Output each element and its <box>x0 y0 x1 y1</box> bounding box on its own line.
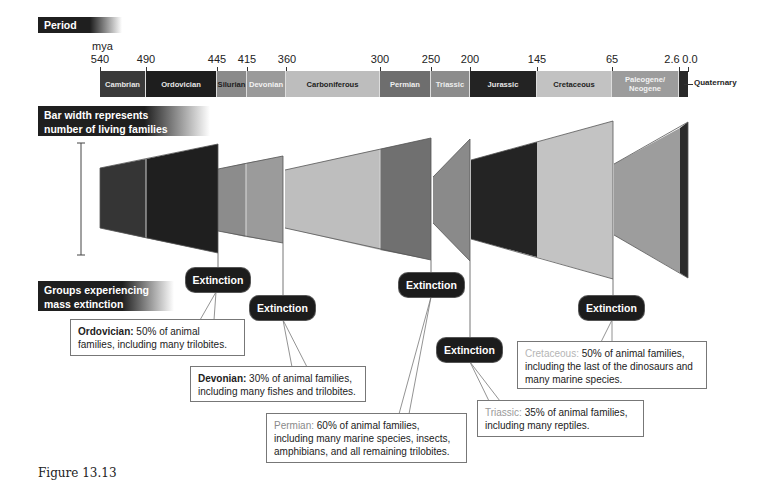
extinction-note-ordovician: Ordovician: 50% of animal families, incl… <box>70 319 245 356</box>
figure-caption: Figure 13.13 <box>38 466 117 480</box>
funnel-permian <box>380 138 431 260</box>
funnel-paleogene-neogene <box>614 128 680 273</box>
extinction-note-period: Triassic: <box>485 407 522 418</box>
funnel-cretaceous <box>537 121 613 279</box>
extinction-badge-triassic: Extinction <box>437 338 502 362</box>
funnel-carboniferous <box>285 149 380 250</box>
extinction-badge-label: Extinction <box>257 302 308 314</box>
funnel-cambrian <box>100 159 146 238</box>
extinction-note-devonian: Devonian: 30% of animal families, includ… <box>190 366 366 402</box>
funnel-quaternary <box>680 122 688 278</box>
extinction-note-period: Devonian: <box>198 373 246 384</box>
extinction-badge-ordovician: Extinction <box>186 268 250 292</box>
scale-bar <box>77 143 85 255</box>
extinction-badge-permian: Extinction <box>399 273 464 297</box>
extinction-note-permian: Permian: 60% of animal families, includi… <box>266 413 467 463</box>
extinction-badge-label: Extinction <box>444 344 495 356</box>
extinction-badge-label: Extinction <box>406 279 457 291</box>
funnel-triassic <box>433 139 470 261</box>
funnel-silurian <box>218 163 246 237</box>
extinction-badge-label: Extinction <box>193 274 244 286</box>
extinction-badge-label: Extinction <box>586 302 637 314</box>
extinction-note-period: Permian: <box>274 420 314 431</box>
funnel-ordovician <box>146 144 218 253</box>
extinction-note-period: Ordovician: <box>78 326 134 337</box>
extinction-note-triassic: Triassic: 35% of animal families, includ… <box>477 400 644 437</box>
extinction-badge-cretaceous: Extinction <box>579 296 644 320</box>
extinction-note-cretaceous: Cretaceous: 50% of animal families, incl… <box>517 341 707 389</box>
extinction-badge-devonian: Extinction <box>250 296 315 320</box>
extinction-note-period: Cretaceous: <box>525 348 579 359</box>
funnel-devonian <box>246 156 283 243</box>
funnel-jurassic <box>471 142 537 257</box>
